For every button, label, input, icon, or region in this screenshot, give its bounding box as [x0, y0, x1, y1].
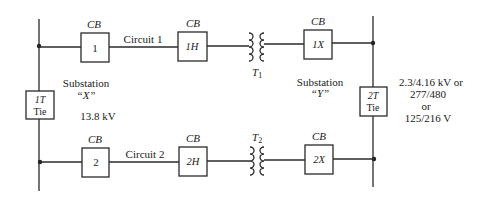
cb-id: 2 [93, 156, 99, 168]
transformer-label: T1 [252, 66, 262, 80]
substation-voltage-line: or [421, 100, 431, 112]
tie-label: Tie [367, 102, 381, 113]
cb-id: 1H [186, 41, 200, 52]
circuit-1-label: Circuit 1 [124, 33, 163, 45]
tie-id: 1T [35, 94, 47, 105]
cb-id: 1 [92, 42, 98, 54]
cb-label: CB [312, 130, 326, 142]
circuit-breaker-2h[interactable]: CB 2H [179, 132, 207, 176]
substation-voltage-line: 2.3/4.16 kV or [399, 76, 463, 88]
circuit-breaker-2[interactable]: CB 2 [82, 133, 109, 177]
substation-name: “X” [77, 89, 96, 101]
one-line-diagram: CB 1 Circuit 1 CB 1H T1 CB 1X [0, 0, 480, 200]
cb-id: 1X [312, 39, 324, 50]
cb-label: CB [186, 132, 200, 144]
transformer-t2: T2 [250, 131, 264, 175]
substation-title: Substation [63, 77, 110, 89]
cb-id: 2X [313, 154, 325, 165]
tie-label: Tie [34, 106, 48, 117]
tie-breaker-1t[interactable]: 1T Tie [26, 91, 54, 119]
transformer-t1: T1 [249, 33, 264, 80]
circuit-breaker-1[interactable]: CB 1 [81, 18, 109, 62]
circuit-2-label: Circuit 2 [126, 148, 165, 160]
circuit-2: CB 2 Circuit 2 CB 2H T2 CB 2X [40, 130, 374, 177]
circuit-breaker-2x[interactable]: CB 2X [305, 130, 333, 174]
cb-label: CB [87, 18, 101, 30]
circuit-breaker-1h[interactable]: CB 1H [178, 17, 207, 61]
transformer-coil-icon [260, 147, 264, 175]
transformer-label: T2 [252, 131, 262, 145]
cb-id: 2H [187, 156, 201, 167]
circuit-1: CB 1 Circuit 1 CB 1H T1 CB 1X [39, 15, 373, 80]
cb-label: CB [311, 15, 325, 27]
cb-label: CB [186, 17, 200, 29]
transformer-coil-icon [250, 147, 254, 175]
circuit-breaker-1x[interactable]: CB 1X [304, 15, 332, 59]
substation-voltage-line: 125/216 V [405, 112, 452, 124]
substation-voltage: 13.8 kV [80, 110, 116, 122]
substation-name: “Y” [311, 87, 329, 99]
transformer-coil-icon [260, 33, 264, 61]
tie-breaker-2t[interactable]: 2T Tie [360, 87, 387, 116]
transformer-coil-icon [249, 33, 253, 61]
tie-id: 2T [368, 90, 380, 101]
substation-voltage-line: 277/480 [410, 88, 447, 100]
substation-x-label: Substation “X” 13.8 kV [63, 77, 116, 122]
cb-label: CB [88, 133, 102, 145]
